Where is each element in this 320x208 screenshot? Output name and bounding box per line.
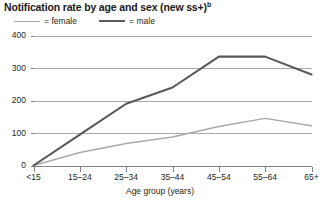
- gridlines: [31, 37, 312, 167]
- x-axis-tick-label: 25–34: [104, 172, 148, 182]
- y-axis-tick-label: 300: [2, 64, 26, 73]
- y-axis-tick-label: 400: [2, 31, 26, 40]
- y-axis-tick-label: 100: [2, 129, 26, 138]
- x-axis-tick-label: 55–64: [243, 172, 287, 182]
- plot-area: 0100200300400 <1515–2425–3435–4445–5455–…: [0, 0, 320, 208]
- series-line-male: [34, 57, 312, 166]
- series-line-female: [34, 118, 312, 165]
- x-axis-tick-label: 65+: [290, 172, 320, 182]
- y-axis-tick-label: 0: [2, 161, 26, 170]
- x-axis-tick-label: <15: [12, 172, 56, 182]
- x-axis-tick-label: 35–44: [151, 172, 195, 182]
- series-lines: [34, 57, 312, 166]
- x-axis-tick-label: 15–24: [58, 172, 102, 182]
- y-axis-tick-label: 200: [2, 96, 26, 105]
- x-axis-ticks: [35, 167, 313, 172]
- x-axis-tick-label: 45–54: [197, 172, 241, 182]
- chart-container: Notification rate by age and sex (new ss…: [0, 0, 320, 208]
- x-axis-title: Age group (years): [0, 186, 320, 196]
